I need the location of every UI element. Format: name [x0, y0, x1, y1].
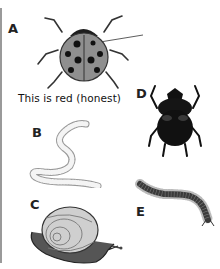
worm-illustration — [24, 118, 104, 188]
millipede-illustration — [134, 170, 220, 234]
ladybug-illustration — [18, 2, 148, 92]
ladybug-caption: This is red (honest) — [18, 92, 121, 104]
beetle-illustration — [145, 80, 205, 160]
snail-illustration — [26, 200, 126, 268]
left-border — [0, 8, 2, 263]
panel-label-a: A — [8, 21, 18, 36]
